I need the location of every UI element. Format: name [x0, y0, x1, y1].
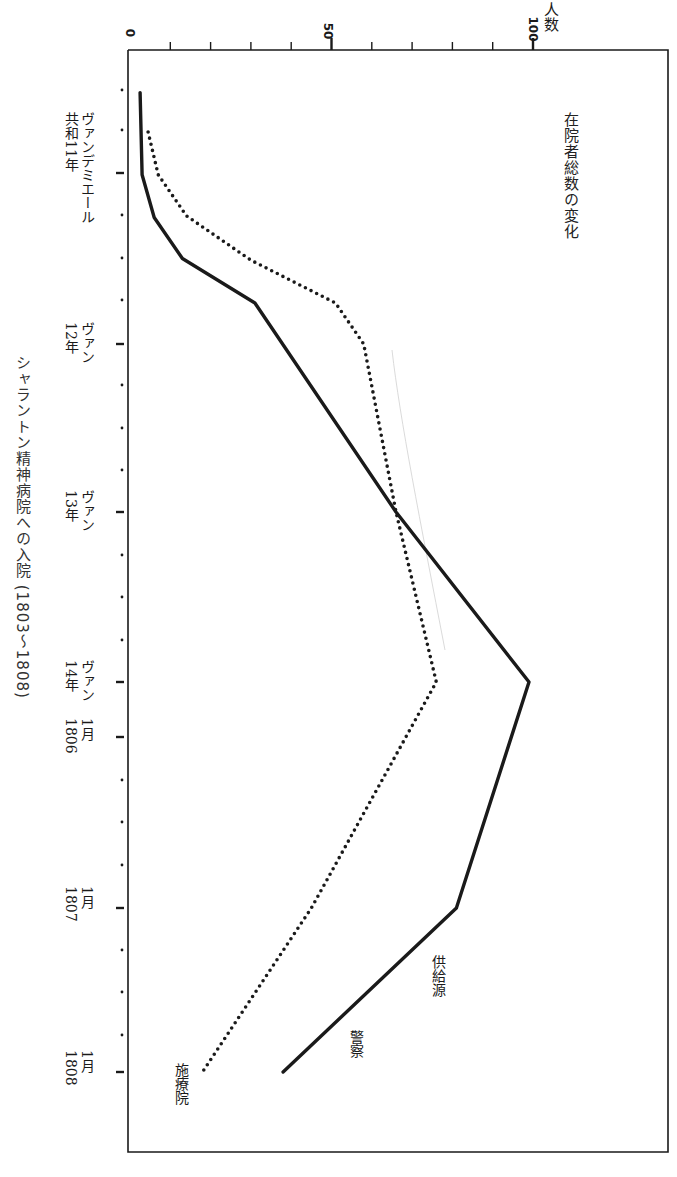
label-source: 供給源 [428, 955, 448, 997]
label-hospital: 施療院 [171, 1063, 191, 1105]
figure-caption: シャラントン精神病院への入院 (1803〜1808) [12, 355, 33, 699]
y-tick-50: 50 [321, 23, 335, 40]
faint-guide-line [392, 350, 445, 650]
chart-title: 在院者総数の変化 [560, 112, 581, 240]
y-tick-100: 100 [526, 16, 540, 41]
x-tick-label-1807: 1月 1807 [63, 886, 95, 922]
x-tick-label-v14: ヴァン 14年 [63, 660, 95, 702]
y-axis-label: 人数 [540, 2, 561, 32]
x-tick-label-1806: 1月 1806 [63, 718, 95, 754]
value-axis-ticks [170, 38, 533, 50]
x-tick-label-1808: 1月 1808 [63, 1050, 95, 1086]
series-police-line [140, 93, 529, 1072]
label-police: 警察 [346, 1030, 366, 1058]
x-tick-label-v12: ヴァン 12年 [63, 322, 95, 364]
plot-frame [128, 50, 668, 1152]
time-axis-ticks [116, 89, 124, 1072]
series-hospital-line [148, 132, 436, 1072]
y-tick-0: 0 [123, 29, 137, 37]
x-tick-label-v11: ヴァンデミエール 共和11年 [63, 112, 95, 224]
x-tick-label-v13: ヴァン 13年 [63, 490, 95, 532]
